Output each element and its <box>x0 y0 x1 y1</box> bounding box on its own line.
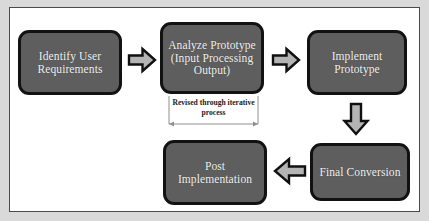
arrow-left-final-to-post <box>273 156 307 186</box>
node-identify-label: Identify User Requirements <box>25 50 115 76</box>
arrow-right-identify-to-analyze <box>127 46 157 74</box>
node-analyze-label: Analyze Prototype (Input Processing Outp… <box>167 39 257 78</box>
node-post-label: Post Implementation <box>170 160 260 186</box>
diagram-page: Identify User Requirements Analyze Proto… <box>0 0 429 221</box>
arrow-right-analyze-to-implement <box>271 46 301 74</box>
feedback-loop-connector: Revised through iterative process <box>167 96 260 128</box>
arrow-down-implement-to-final <box>341 102 371 136</box>
node-final-conversion[interactable]: Final Conversion <box>310 143 410 201</box>
node-final-label: Final Conversion <box>317 166 403 179</box>
feedback-loop-label: Revised through iterative process <box>167 98 260 118</box>
arrow-down-icon <box>341 102 371 136</box>
node-post-implementation[interactable]: Post Implementation <box>163 140 267 205</box>
node-implement-label: Implement Prototype <box>314 50 400 76</box>
arrow-right-icon <box>271 46 301 74</box>
node-identify-user-requirements[interactable]: Identify User Requirements <box>18 30 122 95</box>
arrow-right-icon <box>127 46 157 74</box>
diagram-canvas: Identify User Requirements Analyze Proto… <box>0 0 429 221</box>
node-analyze-prototype[interactable]: Analyze Prototype (Input Processing Outp… <box>160 22 264 94</box>
node-implement-prototype[interactable]: Implement Prototype <box>307 30 407 95</box>
arrow-left-icon <box>273 156 307 186</box>
